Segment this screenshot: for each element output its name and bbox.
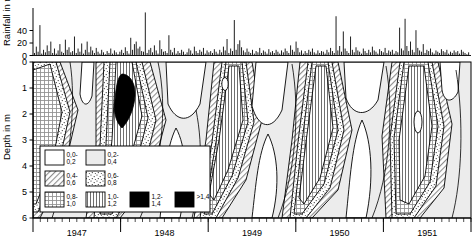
rainfall-bar — [185, 54, 186, 55]
rainfall-bar — [83, 54, 84, 56]
legend-swatch-class-over-1.4 — [175, 192, 194, 207]
rainfall-bar — [69, 47, 70, 55]
rainfall-bar — [38, 52, 39, 56]
rainfall-bar — [414, 52, 415, 55]
rainfall-bar — [63, 53, 64, 56]
rainfall-bar — [194, 47, 195, 56]
rainfall-bar — [54, 49, 55, 56]
rainfall-bar — [105, 54, 106, 55]
depth-tick-label: 4 — [22, 161, 27, 171]
rainfall-bar — [337, 50, 338, 55]
rainfall-bar — [405, 19, 406, 56]
rainfall-bar — [428, 51, 429, 55]
rainfall-bar — [110, 49, 111, 56]
rainfall-bar — [359, 52, 360, 56]
rainfall-bar — [168, 35, 169, 55]
legend: 0,0-0,20,2-0,40,4-0,60,6-0,80,8-1,01,0-1… — [40, 146, 210, 212]
rainfall-bar — [167, 53, 168, 56]
rainfall-bar — [343, 31, 344, 55]
rainfall-bar — [450, 52, 451, 56]
rainfall-bar — [437, 52, 438, 56]
rainfall-bar — [267, 54, 268, 56]
legend-label-bottom-class-0.8-1.0: 1,0 — [67, 200, 76, 207]
rainfall-bar — [134, 44, 135, 55]
legend-swatch-class-0.6-0.8 — [86, 171, 105, 186]
rainfall-bar — [254, 54, 255, 56]
legend-label-top-class-0.6-0.8: 0,6- — [108, 172, 119, 179]
rainfall-bar — [252, 50, 253, 56]
rainfall-bar — [261, 53, 262, 56]
rainfall-bar — [119, 52, 120, 56]
rainfall-bar — [216, 52, 217, 56]
x-axis-year-label: 1951 — [417, 228, 437, 238]
rainfall-bar — [370, 52, 371, 55]
rainfall-bar — [381, 51, 382, 55]
legend-label-top-class-0.0-0.2: 0,0- — [67, 151, 78, 158]
rainfall-bar — [259, 48, 260, 56]
rainfall-bar — [221, 52, 222, 55]
legend-label-top-class-1.2-1.4: 1,2- — [152, 193, 163, 200]
rainfall-bar — [136, 42, 137, 56]
rainfall-bar — [296, 42, 297, 56]
rainfall-bar — [181, 50, 182, 56]
rainfall-bar — [274, 53, 275, 56]
rainfall-bar — [58, 50, 59, 55]
rainfall-bar — [147, 53, 148, 56]
rainfall-bar — [419, 50, 420, 55]
rainfall-bar — [277, 52, 278, 56]
rainfall-bar — [245, 52, 246, 55]
rainfall-bar — [292, 50, 293, 56]
rainfall-bar — [41, 54, 42, 56]
rainfall-bar — [219, 50, 220, 56]
rainfall-bar — [212, 53, 213, 56]
rainfall-bar — [256, 51, 257, 55]
rainfall-bar — [455, 52, 456, 55]
rainfall-bar — [379, 49, 380, 55]
rainfall-bar — [330, 48, 331, 56]
rainfall-bar — [234, 20, 235, 55]
rainfall-bar — [158, 54, 159, 56]
rainfall-bar — [90, 47, 91, 56]
rainfall-bar — [187, 52, 188, 55]
rainfall-bar — [403, 50, 404, 55]
rainfall-bar — [459, 54, 460, 56]
rainfall-bar — [203, 48, 204, 56]
rainfall-bar — [145, 12, 146, 55]
rainfall-bar — [348, 53, 349, 56]
rainfall-bar — [457, 51, 458, 55]
rainfall-bar — [141, 51, 142, 55]
figure-svg: Rainfall in mm 0 20 40 Depth in m — [0, 0, 473, 238]
rainfall-bar — [127, 51, 128, 55]
rainfall-bar — [47, 45, 48, 55]
rainfall-bar — [434, 54, 435, 56]
rainfall-bar — [301, 50, 302, 55]
rainfall-bar — [50, 42, 51, 56]
rainfall-bar — [125, 47, 126, 55]
rainfall-bar — [314, 52, 315, 55]
rainfall-bar — [303, 54, 304, 56]
legend-label-bottom-class-0.4-0.6: 0,6 — [67, 179, 76, 186]
rainfall-bar — [270, 52, 271, 55]
rainfall-bar — [317, 50, 318, 55]
depth-tick-label: 6 — [22, 213, 27, 223]
rainfall-bar — [410, 42, 411, 56]
rainfall-bar — [210, 51, 211, 55]
rainfall-bar — [376, 52, 377, 56]
rainfall-bar — [208, 52, 209, 55]
rainfall-bar — [366, 53, 367, 56]
legend-label-top-class-0.8-1.0: 0,8- — [67, 193, 78, 200]
rainfall-bar — [408, 51, 409, 55]
rainfall-bar — [89, 52, 90, 55]
rainfall-bar — [326, 50, 327, 56]
rainfall-bar — [159, 40, 160, 55]
rainfall-bar — [445, 52, 446, 55]
rainfall-bar — [328, 52, 329, 55]
depth-tick-label: 5 — [22, 187, 27, 197]
rainfall-bar — [425, 53, 426, 56]
rainfall-bar — [239, 40, 240, 55]
rainfall-bar — [139, 47, 140, 56]
rainfall-bar — [454, 50, 455, 55]
rainfall-bar — [39, 25, 40, 55]
rainfall-bar — [354, 52, 355, 55]
rainfall-tick-label-20: 20 — [17, 38, 27, 48]
